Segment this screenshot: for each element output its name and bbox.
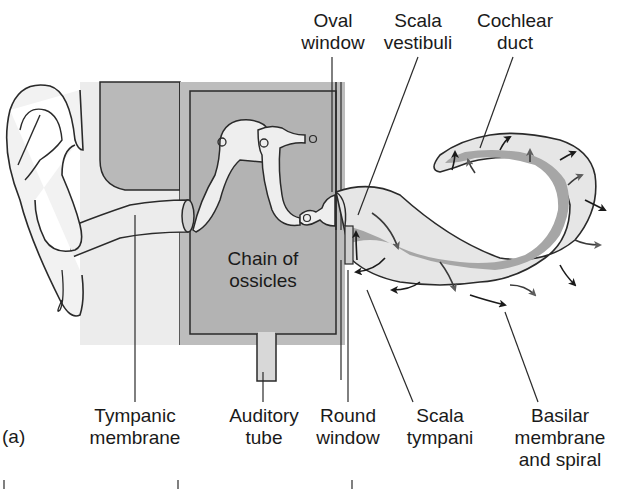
label-line: Scala	[400, 405, 480, 427]
label-tympanic-membrane: Tympanic membrane	[80, 405, 190, 449]
label-line: Tympanic	[80, 405, 190, 427]
label-line: Round	[310, 405, 386, 427]
label-oval-window: Oval window	[298, 10, 368, 54]
label-line: Basilar	[505, 405, 615, 427]
label-line: ossicles	[218, 270, 308, 292]
label-line: membrane	[80, 427, 190, 449]
label-line: tympani	[400, 427, 480, 449]
label-line: duct	[470, 32, 560, 54]
label-basilar-membrane: Basilar membrane and spiral	[505, 405, 615, 471]
label-line: window	[310, 427, 386, 449]
label-line: Auditory	[222, 405, 306, 427]
label-line: vestibuli	[378, 32, 458, 54]
label-cochlear-duct: Cochlear duct	[470, 10, 560, 54]
label-scala-tympani: Scala tympani	[400, 405, 480, 449]
pinna	[7, 85, 83, 316]
label-line: membrane	[505, 427, 615, 449]
label-line: and spiral	[505, 449, 615, 471]
label-scala-vestibuli: Scala vestibuli	[378, 10, 458, 54]
panel-label-text: (a)	[2, 426, 32, 448]
label-line: window	[298, 32, 368, 54]
label-line: Chain of	[218, 248, 308, 270]
label-auditory-tube: Auditory tube	[222, 405, 306, 449]
label-line: Oval	[298, 10, 368, 32]
panel-label: (a)	[2, 426, 32, 448]
cochlea	[336, 133, 596, 285]
label-round-window: Round window	[310, 405, 386, 449]
label-chain-of-ossicles: Chain of ossicles	[218, 248, 308, 292]
label-line: Scala	[378, 10, 458, 32]
label-line: Cochlear	[470, 10, 560, 32]
label-line: tube	[222, 427, 306, 449]
